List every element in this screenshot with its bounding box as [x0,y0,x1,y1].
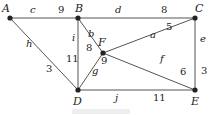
edge-weight-f: 6 [180,66,186,77]
node-F [100,50,105,55]
edge-label-e: e [200,33,206,44]
edge-weight-e: 3 [201,65,207,76]
edge-weight-j: 11 [153,92,166,103]
node-label-E: E [190,95,199,108]
edge-weight-c: 9 [58,4,64,15]
node-E [192,87,197,92]
edge-label-g: g [92,65,98,76]
node-label-A: A [1,2,10,15]
figure-caption-blur [72,109,130,114]
edge-g [78,53,103,90]
edge-weight-g: 9 [101,55,107,66]
edge-weight-b: 8 [86,42,92,53]
node-label-F: F [97,36,106,49]
node-A [7,15,12,20]
edge-weight-d: 8 [161,4,167,15]
edge-label-b: b [88,28,94,39]
weighted-graph-diagram: c9d8h3i11b8a5g9f6e3j11 ABCFDE [0,0,209,116]
edge-a [103,18,195,53]
node-C [192,15,197,20]
edge-label-j: j [113,92,118,103]
edge-labels: c9d8h3i11b8a5g9f6e3j11 [26,4,207,103]
edge-label-i: i [72,32,75,43]
edge-label-d: d [115,4,121,15]
edge-label-f: f [159,53,166,64]
node-label-B: B [74,2,83,15]
node-D [75,87,80,92]
edge-weight-h: 3 [46,63,52,74]
edge-label-a: a [150,29,156,40]
edge-label-h: h [26,38,32,49]
edge-label-c: c [30,4,36,15]
edge-weight-i: 11 [66,53,79,64]
node-label-C: C [195,2,204,15]
edge-weight-a: 5 [166,21,172,32]
node-label-D: D [72,95,82,108]
node-B [75,15,80,20]
